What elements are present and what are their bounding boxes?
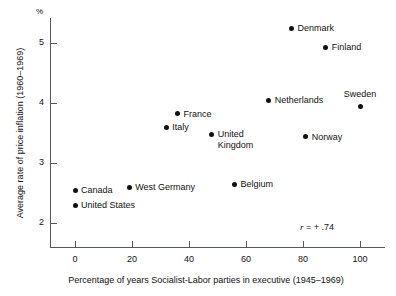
x-tick-label-40: 40 (174, 255, 204, 264)
data-label-france: France (184, 109, 212, 120)
data-point-west-germany (127, 185, 132, 190)
x-tick-label-60: 60 (231, 255, 261, 264)
data-point-denmark (289, 26, 294, 31)
data-label-norway: Norway (312, 132, 343, 143)
y-tick-3 (51, 163, 57, 164)
data-point-france (175, 111, 180, 116)
data-label-canada: Canada (81, 185, 113, 196)
plot-area: % 2345 020406080100 CanadaUnited StatesW… (0, 0, 396, 296)
y-tick-label-2: 2 (22, 218, 44, 227)
data-point-united-states (73, 203, 78, 208)
x-axis-title: Percentage of years Socialist-Labor part… (28, 275, 384, 285)
x-tick-80 (303, 241, 304, 247)
y-tick-label-3: 3 (22, 158, 44, 167)
y-tick-label-5: 5 (22, 38, 44, 47)
y-tick-label-4: 4 (22, 98, 44, 107)
data-label-sweden: Sweden (330, 89, 390, 100)
correlation-value: = + .74 (304, 222, 335, 232)
scatter-plot-figure: % 2345 020406080100 CanadaUnited StatesW… (0, 0, 396, 296)
data-point-sweden (358, 104, 363, 109)
correlation-annotation: r = + .74 (300, 222, 380, 232)
data-point-netherlands (266, 98, 271, 103)
data-point-italy (164, 125, 169, 130)
x-tick-60 (246, 241, 247, 247)
x-tick-label-0: 0 (60, 255, 90, 264)
x-tick-label-100: 100 (345, 255, 375, 264)
data-point-united-kingdom (209, 132, 214, 137)
data-label-italy: Italy (172, 122, 189, 133)
x-tick-100 (360, 241, 361, 247)
data-label-united-kingdom: United Kingdom (218, 129, 254, 150)
x-tick-20 (132, 241, 133, 247)
data-point-norway (303, 134, 308, 139)
y-axis-title: Average rate of price inflation (1960–19… (15, 20, 25, 246)
data-label-belgium: Belgium (241, 179, 274, 190)
y-tick-2 (51, 223, 57, 224)
y-tick-4 (51, 103, 57, 104)
x-axis-line (50, 247, 385, 248)
data-label-west-germany: West Germany (135, 182, 195, 193)
data-point-canada (73, 188, 78, 193)
data-label-netherlands: Netherlands (275, 95, 324, 106)
x-tick-label-20: 20 (117, 255, 147, 264)
data-label-finland: Finland (332, 42, 362, 53)
y-axis-line (50, 18, 51, 248)
x-tick-40 (189, 241, 190, 247)
data-point-finland (323, 45, 328, 50)
x-tick-label-80: 80 (288, 255, 318, 264)
data-label-denmark: Denmark (298, 23, 335, 34)
x-tick-0 (75, 241, 76, 247)
data-label-united-states: United States (81, 200, 135, 211)
y-axis-unit-label: % (36, 8, 43, 16)
data-point-belgium (232, 182, 237, 187)
y-tick-5 (51, 43, 57, 44)
